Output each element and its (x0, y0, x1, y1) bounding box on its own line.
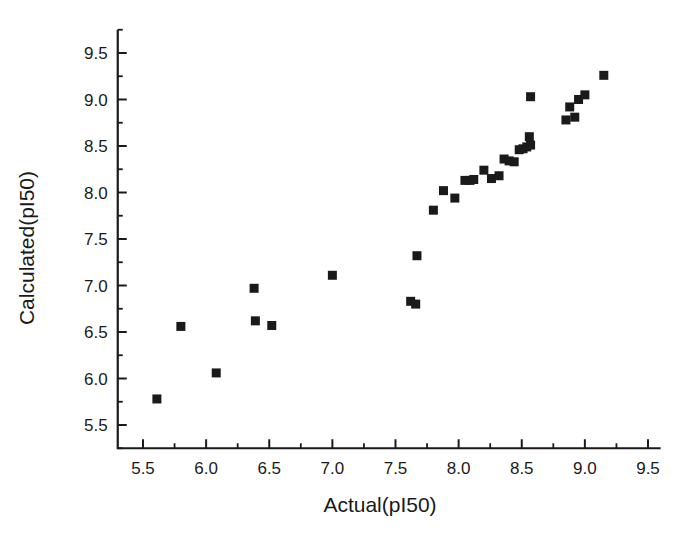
data-point-marker (526, 141, 535, 150)
y-axis-title: Calculated(pI50) (15, 171, 38, 325)
data-point-marker (570, 113, 579, 122)
x-tick-label: 6.0 (194, 459, 218, 478)
y-tick-label: 6.5 (84, 323, 108, 342)
data-point-marker (561, 115, 570, 124)
data-point-marker (599, 71, 608, 80)
data-point-marker (525, 132, 534, 141)
y-tick-label: 9.5 (84, 44, 108, 63)
x-axis-tick-labels: 5.56.06.57.07.58.08.59.09.5 (131, 459, 660, 478)
data-point-marker (526, 92, 535, 101)
x-tick-label: 9.5 (636, 459, 660, 478)
chart-figure: 5.56.06.57.07.58.08.59.09.5 5.56.06.57.0… (0, 0, 684, 538)
data-point-marker (565, 102, 574, 111)
data-point-marker (469, 175, 478, 184)
y-tick-label: 8.0 (84, 184, 108, 203)
y-tick-label: 5.5 (84, 416, 108, 435)
plot-background (0, 0, 684, 538)
data-point-marker (411, 300, 420, 309)
x-tick-label: 8.0 (447, 459, 471, 478)
data-point-marker (479, 166, 488, 175)
data-point-marker (328, 271, 337, 280)
x-tick-label: 6.5 (257, 459, 281, 478)
x-tick-label: 7.5 (384, 459, 408, 478)
y-tick-label: 6.0 (84, 370, 108, 389)
data-point-marker (580, 90, 589, 99)
x-tick-label: 7.0 (321, 459, 345, 478)
x-tick-label: 5.5 (131, 459, 155, 478)
y-tick-label: 9.0 (84, 91, 108, 110)
x-tick-label: 9.0 (573, 459, 597, 478)
y-axis-tick-labels: 5.56.06.57.07.58.08.59.09.5 (84, 44, 108, 435)
data-point-marker (450, 194, 459, 203)
data-point-marker (267, 321, 276, 330)
x-tick-label: 8.5 (510, 459, 534, 478)
data-point-marker (510, 157, 519, 166)
y-tick-label: 8.5 (84, 137, 108, 156)
y-tick-label: 7.0 (84, 277, 108, 296)
data-point-marker (439, 186, 448, 195)
data-point-marker (412, 251, 421, 260)
data-point-marker (176, 322, 185, 331)
data-point-marker (495, 171, 504, 180)
y-tick-label: 7.5 (84, 230, 108, 249)
data-point-marker (250, 284, 259, 293)
data-point-marker (212, 368, 221, 377)
x-axis-title: Actual(pI50) (323, 493, 436, 516)
data-point-marker (152, 394, 161, 403)
data-point-marker (429, 206, 438, 215)
data-point-marker (251, 316, 260, 325)
scatter-plot-canvas: 5.56.06.57.07.58.08.59.09.5 5.56.06.57.0… (0, 0, 684, 538)
